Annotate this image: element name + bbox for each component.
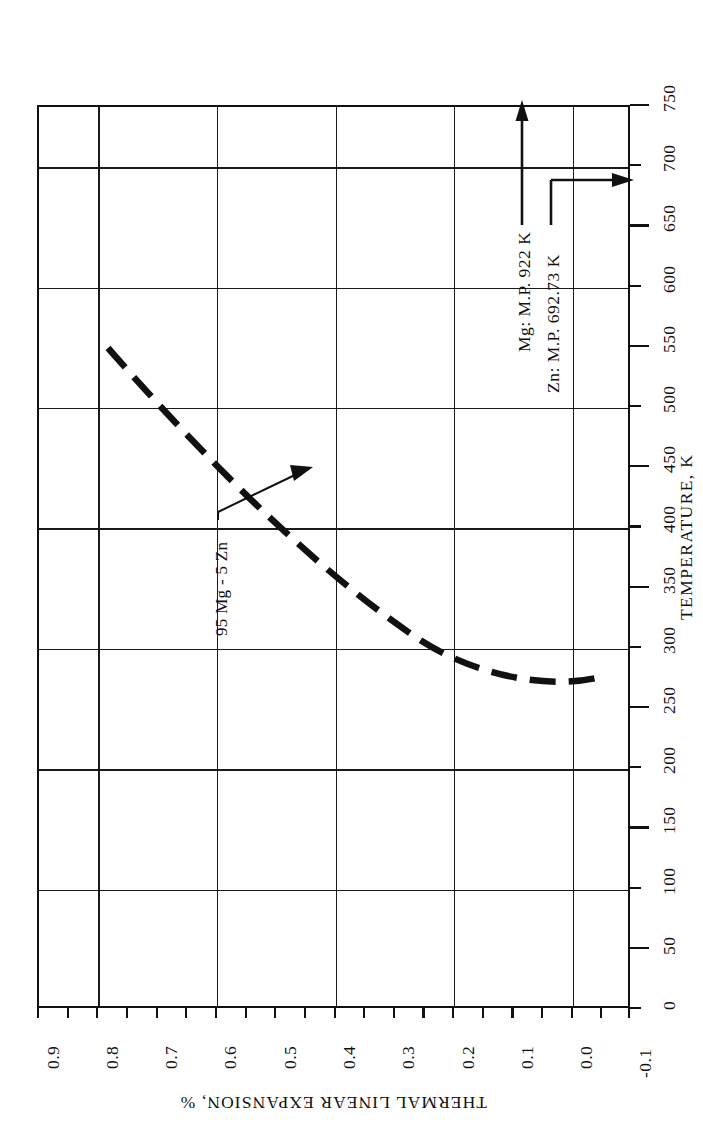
tick-temp-750 — [630, 104, 649, 106]
gridline-temp-700 — [39, 167, 628, 168]
temp-tick-label-750: 750 — [661, 85, 679, 112]
temp-tick-label-0: 0 — [661, 1001, 679, 1010]
temp-tick-label-250: 250 — [661, 687, 679, 714]
gridline-temp-500 — [39, 408, 628, 409]
tick-temp-600 — [630, 285, 641, 287]
plot-frame — [37, 105, 630, 1008]
exp-tick-label-0.7: 0.7 — [163, 1046, 181, 1069]
tick-temp-450 — [630, 465, 649, 467]
exp-tick-label-0.2: 0.2 — [460, 1046, 478, 1069]
exp-tick-label-0.6: 0.6 — [222, 1046, 240, 1069]
tick-exp-0.35 — [363, 1008, 365, 1018]
exp-tick-label-0.0: 0.0 — [578, 1046, 596, 1069]
temperature-axis-title: TEMPERATURE, K — [676, 454, 697, 620]
gridline-exp-0.8 — [98, 107, 99, 1006]
exp-tick-label-0.5: 0.5 — [282, 1046, 300, 1069]
tick-exp-0.15 — [482, 1008, 484, 1018]
tick-temp-200 — [630, 766, 641, 768]
tick-exp-0.85 — [67, 1008, 69, 1018]
mg-melting-point-label: Mg: M.P. 922 K — [514, 232, 535, 352]
tick-temp-500 — [630, 405, 641, 407]
exp-tick-label--0.1: -0.1 — [637, 1049, 655, 1078]
gridline-temp-100 — [39, 890, 628, 891]
tick-temp-100 — [630, 887, 641, 889]
tick-exp-0.1 — [511, 1008, 513, 1018]
exp-tick-label-0.9: 0.9 — [45, 1046, 63, 1069]
exp-tick-label-0.3: 0.3 — [400, 1046, 418, 1069]
expansion-axis-title: THERMAL LINEAR EXPANSION, % — [180, 1092, 487, 1113]
gridline-temp-200 — [39, 769, 628, 770]
tick-exp-0.75 — [126, 1008, 128, 1018]
tick-exp--0.05 — [600, 1008, 602, 1018]
tick-temp-650 — [630, 224, 649, 226]
exp-tick-label-0.4: 0.4 — [341, 1046, 359, 1069]
tick-exp-0.7 — [156, 1008, 158, 1018]
tick-exp-0.65 — [185, 1008, 187, 1018]
tick-exp-0.45 — [304, 1008, 306, 1018]
tick-exp-0.05 — [541, 1008, 543, 1018]
thermal-expansion-figure: 750 700 650 600 550 500 450 400 350 300 … — [0, 0, 703, 1140]
tick-temp-150 — [630, 826, 649, 828]
tick-temp-300 — [630, 646, 641, 648]
tick-exp-0.8 — [96, 1008, 98, 1018]
temp-tick-label-700: 700 — [661, 145, 679, 172]
exp-tick-label-0.8: 0.8 — [104, 1046, 122, 1069]
temp-tick-label-650: 650 — [661, 205, 679, 232]
gridline-temp-600 — [39, 288, 628, 289]
gridline-exp-0.2 — [454, 107, 455, 1006]
tick-temp-250 — [630, 706, 649, 708]
tick-exp-0.3 — [393, 1008, 395, 1018]
tick-exp-0.6 — [215, 1008, 217, 1018]
temp-tick-label-50: 50 — [661, 937, 679, 955]
tick-exp-0.2 — [452, 1008, 454, 1018]
temp-tick-label-200: 200 — [661, 747, 679, 774]
temp-tick-label-150: 150 — [661, 807, 679, 834]
zn-melting-point-label: Zn: M.P. 692.73 K — [543, 254, 564, 393]
gridline-exp-0.4 — [336, 107, 337, 1006]
temp-tick-label-550: 550 — [661, 326, 679, 353]
gridline-temp-300 — [39, 649, 628, 650]
tick-exp-0.9 — [37, 1008, 39, 1018]
tick-temp-0 — [630, 1007, 641, 1009]
tick-exp-0.4 — [334, 1008, 336, 1018]
temp-tick-label-600: 600 — [661, 266, 679, 293]
series-label: 95 Mg - 5 Zn — [212, 542, 232, 636]
tick-exp-0.5 — [274, 1008, 276, 1018]
gridline-temp-400 — [39, 528, 628, 529]
temp-tick-label-500: 500 — [661, 386, 679, 413]
exp-tick-label-0.1: 0.1 — [519, 1046, 537, 1069]
tick-exp-0.25 — [422, 1008, 424, 1018]
tick-exp-0.0 — [571, 1008, 573, 1018]
tick-temp-550 — [630, 345, 649, 347]
gridline-exp-0.0 — [573, 107, 574, 1006]
tick-temp-350 — [630, 586, 649, 588]
tick-temp-700 — [630, 164, 641, 166]
tick-temp-50 — [630, 947, 649, 949]
tick-temp-400 — [630, 525, 641, 527]
temp-tick-label-100: 100 — [661, 868, 679, 895]
tick-exp--0.1 — [628, 1008, 630, 1018]
temp-tick-label-300: 300 — [661, 627, 679, 654]
tick-exp-0.55 — [245, 1008, 247, 1018]
